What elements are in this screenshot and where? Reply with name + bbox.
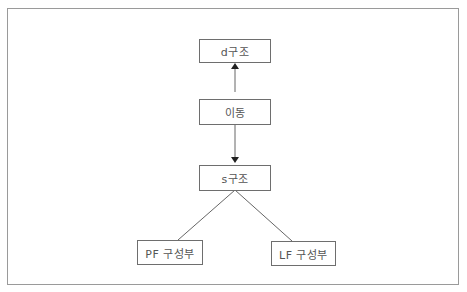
node-pf-component: PF 구성부	[137, 240, 203, 265]
node-s-structure: s구조	[199, 165, 271, 191]
node-lf-component: LF 구성부	[271, 241, 336, 266]
line-to-pf	[178, 190, 235, 240]
node-movement: 이동	[199, 99, 271, 125]
line-to-lf	[235, 190, 292, 241]
node-d-structure: d구조	[199, 39, 271, 63]
